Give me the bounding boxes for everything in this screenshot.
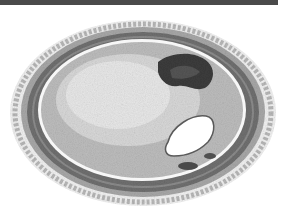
artery-cross-section-illustration [0, 0, 282, 221]
